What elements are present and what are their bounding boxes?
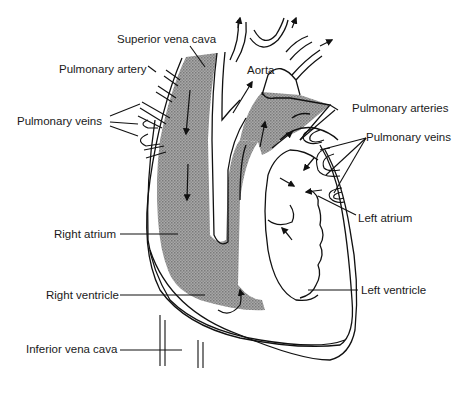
label-right-ventricle: Right ventricle	[46, 289, 119, 301]
label-aorta: Aorta	[247, 64, 275, 76]
label-left-ventricle: Left ventricle	[361, 284, 426, 296]
label-left-atrium: Left atrium	[358, 212, 412, 224]
deoxygenated-region	[157, 53, 330, 310]
label-pulmonary-arteries: Pulmonary arteries	[352, 102, 449, 114]
label-right-atrium: Right atrium	[54, 228, 116, 240]
inferior-vena-cava	[160, 315, 203, 368]
label-pulmonary-artery: Pulmonary artery	[59, 63, 147, 75]
label-pulmonary-veins-left: Pulmonary veins	[17, 115, 102, 127]
label-inferior-vena-cava: Inferior vena cava	[26, 343, 118, 355]
heart-diagram: Superior vena cava Pulmonary artery Pulm…	[0, 0, 471, 396]
label-superior-vena-cava: Superior vena cava	[117, 33, 217, 45]
label-pulmonary-veins-right: Pulmonary veins	[366, 131, 451, 143]
